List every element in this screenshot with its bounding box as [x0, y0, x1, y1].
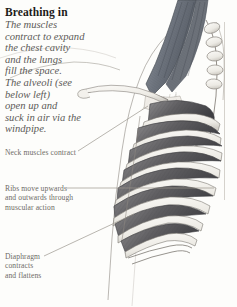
body-line: the chest cavity [5, 42, 123, 54]
page-title: Breathing in [5, 6, 68, 18]
body-line: contract to expand [5, 31, 123, 43]
body-line: and the lungs [5, 54, 123, 66]
body-line: The muscles [5, 19, 123, 31]
callout-line: Ribs move upwards [5, 184, 73, 193]
body-line: open up and [5, 100, 123, 112]
body-line: suck in air via the [5, 112, 123, 124]
body-line: below left) [5, 89, 123, 101]
breathing-in-illustration-page: Breathing in The muscles contract to exp… [0, 0, 237, 307]
body-line: windpipe. [5, 123, 123, 135]
callout-line: Neck muscles contract [5, 148, 76, 157]
body-line: The alveoli (see [5, 77, 123, 89]
callout-line: and outwards through [5, 193, 73, 202]
callout-diaphragm: Diaphragm contracts and flattens [5, 252, 41, 280]
intro-paragraph: The muscles contract to expand the chest… [5, 19, 123, 135]
callout-line: and flattens [5, 271, 41, 280]
callout-line: muscular action [5, 203, 73, 212]
callout-neck-muscles: Neck muscles contract [5, 148, 76, 157]
callout-line: Diaphragm [5, 252, 41, 261]
callout-ribs: Ribs move upwards and outwards through m… [5, 184, 73, 212]
body-line: fill the space. [5, 65, 123, 77]
text-layer: Breathing in The muscles contract to exp… [0, 0, 237, 307]
callout-line: contracts [5, 261, 41, 270]
